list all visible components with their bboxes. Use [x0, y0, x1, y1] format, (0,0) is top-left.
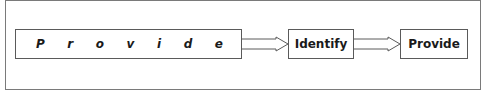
arrow-right-icon	[354, 34, 400, 54]
letter: r	[67, 37, 73, 51]
step-label: Identify	[295, 37, 348, 51]
step-box-identify: Identify	[288, 29, 354, 59]
letter: o	[96, 37, 104, 51]
letter: i	[157, 37, 161, 51]
step-box-provide-spaced: P r o v i d e	[15, 29, 242, 59]
letter: P	[36, 37, 45, 51]
step-label: Provide	[408, 37, 460, 51]
step-box-provide: Provide	[400, 29, 468, 59]
letter: e	[215, 37, 223, 51]
arrow-right-icon	[242, 34, 288, 54]
letter: d	[184, 37, 193, 51]
letter: v	[127, 37, 135, 51]
